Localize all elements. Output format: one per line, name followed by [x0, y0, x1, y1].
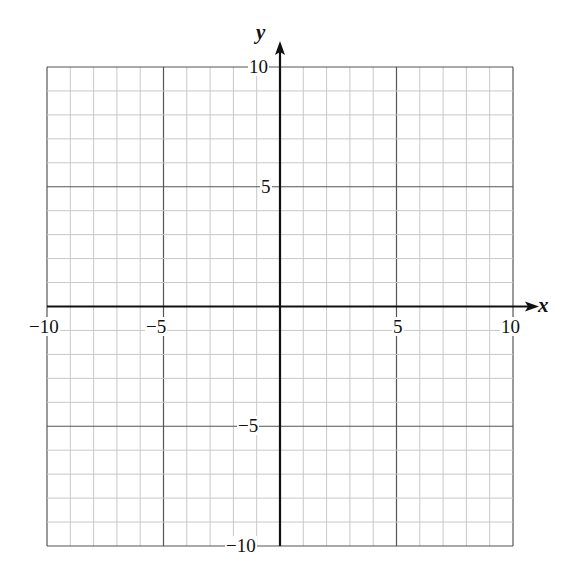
y-tick-label: 10	[248, 57, 269, 76]
x-tick-label: −10	[28, 317, 60, 336]
x-axis-label: x	[538, 295, 549, 316]
y-tick-label: −10	[225, 536, 257, 555]
x-tick-label: −5	[145, 317, 167, 336]
y-tick-label: −5	[237, 416, 259, 435]
y-axis-label: y	[256, 22, 265, 43]
coordinate-grid	[0, 0, 571, 571]
x-tick-label: 10	[500, 317, 521, 336]
y-tick-label: 5	[260, 177, 272, 196]
x-tick-label: 5	[392, 317, 404, 336]
